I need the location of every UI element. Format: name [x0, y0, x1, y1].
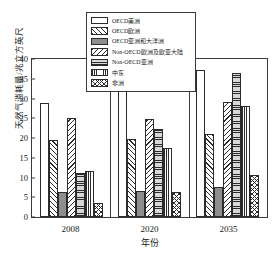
bar [127, 139, 136, 217]
x-axis-tick-labels: 200820202035 [31, 219, 268, 234]
legend-swatch [91, 38, 108, 46]
x-axis-tick-label: 2035 [189, 219, 268, 234]
x-axis-title: 年份 [31, 236, 268, 249]
y-axis-tick-label: 25 [20, 114, 29, 123]
legend-item: OECD亚洲和大洋洲 [91, 37, 192, 46]
legend-item: OECD欧洲 [91, 26, 192, 35]
bar [40, 103, 49, 217]
bar [223, 102, 232, 217]
y-axis-tick-label: 30 [20, 94, 29, 103]
y-axis-tick-label: 10 [20, 173, 29, 182]
bar [49, 140, 58, 217]
legend-swatch [91, 27, 108, 35]
chart-legend: OECD美洲OECD欧洲OECD亚洲和大洋洲Non-OECD欧洲及欧亚大陆Non… [86, 12, 196, 92]
y-axis-tick-label: 35 [20, 75, 29, 84]
legend-swatch [91, 59, 108, 67]
bar [76, 173, 85, 217]
legend-label: OECD亚洲和大洋洲 [112, 38, 164, 44]
legend-item: Non-OECD欧洲及欧亚大陆 [91, 47, 192, 56]
bar [241, 106, 250, 217]
bar [58, 192, 67, 217]
legend-swatch [91, 48, 108, 56]
legend-label: 非洲 [112, 80, 124, 86]
legend-label: OECD美洲 [112, 18, 140, 24]
legend-label: Non-OECD欧洲及欧亚大陆 [112, 49, 183, 55]
legend-item: 中东 [91, 68, 192, 77]
bar [85, 171, 94, 217]
bar [136, 191, 145, 217]
legend-label: Non-OECD亚洲 [112, 59, 153, 65]
bar [232, 73, 241, 217]
bar [118, 90, 127, 217]
bar [205, 134, 214, 217]
natural-gas-consumption-bar-chart: 天然气消耗量/兆立方英尺 0510152025303540 2008202020… [0, 0, 274, 263]
bar [172, 192, 181, 217]
y-axis-tick-label: 20 [20, 134, 29, 143]
legend-item: 非洲 [91, 78, 192, 87]
x-axis-tick-label: 2008 [31, 219, 110, 234]
bar [154, 129, 163, 217]
y-axis-tick-label: 0 [24, 213, 28, 222]
y-axis-tick-label: 15 [20, 154, 29, 163]
bar [67, 118, 76, 217]
legend-swatch [91, 17, 108, 25]
bar [214, 187, 223, 217]
legend-label: OECD欧洲 [112, 28, 140, 34]
bar-group [189, 59, 267, 217]
legend-item: Non-OECD亚洲 [91, 58, 192, 67]
x-axis-tick-label: 2020 [110, 219, 189, 234]
bar [196, 70, 205, 217]
legend-label: 中东 [112, 70, 124, 76]
bar [145, 119, 154, 217]
legend-swatch [91, 69, 108, 77]
y-axis-tick-label: 5 [24, 193, 28, 202]
legend-swatch [91, 79, 108, 87]
y-axis-tick-label: 40 [20, 55, 29, 64]
bar [163, 148, 172, 217]
bar [94, 203, 103, 217]
legend-item: OECD美洲 [91, 16, 192, 25]
bar [250, 175, 259, 217]
